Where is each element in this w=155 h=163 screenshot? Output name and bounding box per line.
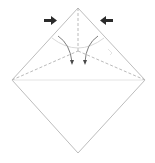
origami-diagram [0,0,155,163]
push-arrow-right-icon [44,16,57,25]
diagram-svg [0,0,155,163]
push-arrow-left-icon [100,16,113,25]
